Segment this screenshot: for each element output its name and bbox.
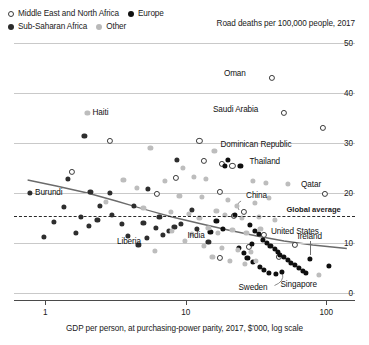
data-point[interactable] [214, 218, 219, 223]
y-axis-tick-0: 0 [337, 289, 353, 298]
data-point-qatar[interactable] [322, 191, 328, 197]
data-point-thailand[interactable] [238, 163, 243, 168]
data-point[interactable] [266, 270, 271, 275]
data-point[interactable] [199, 194, 204, 199]
data-point[interactable] [217, 255, 223, 261]
data-point[interactable] [225, 197, 230, 202]
data-point[interactable] [103, 199, 108, 204]
data-point[interactable] [272, 217, 277, 222]
data-point[interactable] [249, 241, 254, 246]
data-point[interactable] [229, 163, 235, 169]
data-point[interactable] [320, 125, 326, 131]
data-point[interactable] [250, 178, 255, 183]
data-point[interactable] [121, 177, 126, 182]
data-point[interactable] [210, 254, 215, 259]
data-point-dominican-republic[interactable] [212, 148, 217, 153]
data-point[interactable] [245, 255, 250, 260]
data-point[interactable] [108, 190, 113, 195]
data-point[interactable] [175, 157, 180, 162]
data-point[interactable] [119, 221, 124, 226]
data-point-saudi-arabia[interactable] [281, 110, 287, 116]
data-point[interactable] [170, 228, 175, 233]
data-point[interactable] [41, 234, 46, 239]
data-point[interactable] [304, 270, 309, 275]
data-point[interactable] [152, 248, 157, 253]
data-point[interactable] [65, 176, 70, 181]
data-point[interactable] [227, 258, 232, 263]
data-point[interactable] [97, 203, 102, 208]
data-point[interactable] [69, 169, 75, 175]
data-point[interactable] [153, 191, 159, 197]
data-point[interactable] [263, 180, 268, 185]
legend-item-mena[interactable]: Middle East and North Africa [8, 7, 119, 20]
data-point[interactable] [146, 186, 151, 191]
data-point[interactable] [51, 219, 56, 224]
data-point-burundi[interactable] [27, 190, 32, 195]
data-point[interactable] [73, 230, 78, 235]
data-point[interactable] [162, 178, 167, 183]
open-circle-marker-icon [8, 11, 14, 17]
data-point[interactable] [219, 245, 224, 250]
data-point[interactable] [86, 223, 91, 228]
data-point[interactable] [178, 221, 183, 226]
data-point[interactable] [225, 157, 230, 162]
legend-item-subsaharan-africa[interactable]: Sub-Saharan Africa [8, 20, 87, 33]
annotation-haiti: Haiti [92, 108, 108, 117]
data-point[interactable] [177, 193, 182, 198]
data-point[interactable] [134, 185, 139, 190]
data-point-singapore[interactable] [316, 272, 321, 277]
data-point[interactable] [61, 204, 66, 209]
data-point[interactable] [234, 203, 239, 208]
annotation-saudi-arabia: Saudi Arabia [213, 105, 258, 114]
x-axis-line [14, 300, 355, 301]
data-point[interactable] [192, 174, 197, 179]
data-point[interactable] [168, 209, 173, 214]
plot-area: 01020304050Global averageOmanSaudi Arabi… [14, 43, 355, 293]
data-point[interactable] [82, 133, 87, 138]
data-point[interactable] [221, 226, 226, 231]
data-point[interactable] [235, 247, 240, 252]
data-point[interactable] [327, 263, 332, 268]
data-point-haiti[interactable] [85, 110, 90, 115]
data-point[interactable] [243, 261, 248, 266]
annotation-oman: Oman [224, 69, 246, 78]
data-point[interactable] [216, 230, 221, 235]
data-point[interactable] [204, 176, 209, 181]
data-point-china[interactable] [241, 209, 247, 215]
data-point-oman[interactable] [269, 75, 275, 81]
data-point[interactable] [201, 243, 206, 248]
data-point[interactable] [214, 208, 219, 213]
y-axis-tick-40: 40 [337, 89, 353, 98]
data-point[interactable] [253, 258, 258, 263]
data-point[interactable] [292, 242, 298, 248]
data-point[interactable] [222, 163, 227, 168]
data-point[interactable] [244, 230, 249, 235]
data-point[interactable] [180, 165, 185, 170]
data-point-liberia[interactable] [144, 235, 149, 240]
data-point[interactable] [201, 157, 207, 163]
data-point[interactable] [141, 220, 146, 225]
data-point[interactable] [247, 222, 252, 227]
data-point[interactable] [248, 249, 253, 254]
data-point[interactable] [95, 217, 100, 222]
legend-item-other[interactable]: Other [96, 20, 126, 33]
data-point[interactable] [161, 232, 166, 237]
legend-label-subsaharan-africa: Sub-Saharan Africa [18, 20, 87, 33]
data-point[interactable] [274, 271, 279, 276]
filled-circle-marker-icon [96, 24, 102, 30]
data-point[interactable] [217, 189, 223, 195]
data-point-ireland[interactable] [307, 256, 312, 261]
data-point[interactable] [285, 181, 290, 186]
data-point[interactable] [252, 200, 257, 205]
data-point[interactable] [153, 225, 158, 230]
data-point[interactable] [148, 145, 153, 150]
data-point-sweden[interactable] [279, 269, 284, 274]
data-point[interactable] [141, 205, 146, 210]
annotation-sweden: Sweden [239, 283, 268, 292]
data-point[interactable] [132, 203, 137, 208]
data-point[interactable] [173, 175, 179, 181]
filled-circle-marker-icon [8, 24, 14, 30]
legend-item-europe[interactable]: Europe [128, 7, 164, 20]
data-point[interactable] [230, 227, 235, 232]
gridline-y-20 [14, 193, 355, 194]
